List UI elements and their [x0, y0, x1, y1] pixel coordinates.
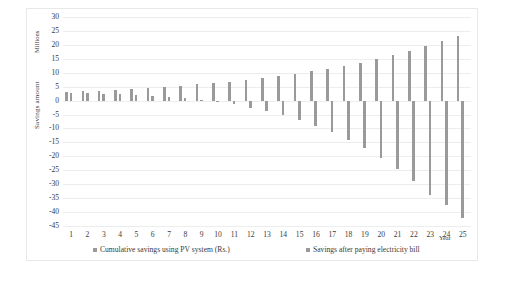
bar-series-2: [314, 101, 317, 126]
bar-group: [308, 17, 324, 226]
bar-series-1: [375, 59, 378, 101]
bar-group: [177, 17, 193, 226]
bar-series-1: [179, 86, 182, 101]
bar-series-1: [392, 55, 395, 100]
bar-series-1: [441, 41, 444, 100]
bar-series-2: [184, 98, 187, 101]
bar-group: [406, 17, 422, 226]
bar-series-2: [200, 100, 203, 101]
bar-series-2: [168, 97, 171, 101]
y-axis-tick: -10: [49, 125, 59, 133]
bar-series-1: [163, 87, 166, 101]
bar-series-2: [347, 101, 350, 140]
y-axis-tick: -45: [49, 222, 59, 230]
chart-container: 302520151050-5-10-15-20-25-30-35-40-45 S…: [26, 8, 478, 261]
y-axis-tick: 25: [51, 27, 59, 35]
bar-series-1: [196, 84, 199, 100]
bar-group: [63, 17, 79, 226]
bar-group: [112, 17, 128, 226]
x-axis-tick: 22: [410, 231, 418, 239]
gridline: [63, 226, 471, 227]
bar-series-1: [130, 89, 133, 101]
bar-group: [357, 17, 373, 226]
bar-series-group: [63, 17, 471, 226]
bar-group: [455, 17, 471, 226]
y-axis-title: Savings amount: [33, 81, 41, 129]
bar-series-1: [310, 71, 313, 100]
bar-group: [96, 17, 112, 226]
x-axis-tick: 21: [394, 231, 402, 239]
legend-item[interactable]: Cumulative savings using PV system (Rs.): [93, 246, 230, 254]
x-axis-tick: 17: [328, 231, 336, 239]
x-axis-tick: 9: [200, 231, 204, 239]
bar-series-2: [249, 101, 252, 108]
bar-series-2: [233, 101, 236, 105]
y-axis-tick: -30: [49, 180, 59, 188]
x-axis-tick: 3: [102, 231, 106, 239]
x-axis-tick: 6: [151, 231, 155, 239]
bar-series-1: [359, 63, 362, 101]
bar-group: [275, 17, 291, 226]
x-axis-tick: 1: [69, 231, 73, 239]
bar-group: [259, 17, 275, 226]
bar-series-2: [282, 101, 285, 116]
x-axis-tick: 16: [312, 231, 320, 239]
x-axis-tick: 19: [361, 231, 369, 239]
bar-series-2: [429, 101, 432, 196]
y-axis-tick: 0: [55, 97, 59, 105]
bar-series-2: [331, 101, 334, 132]
y-axis-tick: -20: [49, 153, 59, 161]
x-axis-tick: 4: [118, 231, 122, 239]
y-axis-tick: 10: [51, 69, 59, 77]
bar-series-1: [212, 83, 215, 101]
bar-series-2: [216, 101, 219, 102]
bar-group: [291, 17, 307, 226]
bar-series-2: [396, 101, 399, 169]
bar-series-1: [277, 76, 280, 101]
bar-group: [373, 17, 389, 226]
bar-series-1: [424, 46, 427, 100]
bar-series-1: [114, 90, 117, 101]
y-axis-tick: -40: [49, 208, 59, 216]
bar-series-1: [147, 88, 150, 101]
bar-group: [389, 17, 405, 226]
bar-series-2: [102, 94, 105, 101]
y-axis-tick: -25: [49, 166, 59, 174]
bar-series-2: [412, 101, 415, 182]
bar-group: [324, 17, 340, 226]
x-axis-tick: 14: [280, 231, 288, 239]
bar-series-2: [380, 101, 383, 158]
bar-series-1: [457, 36, 460, 101]
bar-group: [161, 17, 177, 226]
x-axis-tick: 11: [231, 231, 238, 239]
bar-group: [145, 17, 161, 226]
x-axis-tick: 13: [263, 231, 271, 239]
bar-series-1: [326, 69, 329, 101]
legend-swatch-icon: [93, 248, 97, 252]
bar-series-1: [245, 80, 248, 101]
legend-label: Cumulative savings using PV system (Rs.): [100, 245, 230, 254]
x-axis-tick: 5: [135, 231, 139, 239]
x-axis-tick: 8: [183, 231, 187, 239]
bar-group: [210, 17, 226, 226]
x-axis-tick: 20: [377, 231, 385, 239]
bar-series-2: [265, 101, 268, 112]
y-axis-tick: 15: [51, 55, 59, 63]
x-axis-tick-labels: 1234567891011121314151617181920212223242…: [63, 231, 471, 243]
x-axis-tick: 15: [296, 231, 304, 239]
bar-series-1: [408, 51, 411, 101]
y-axis-tick: 20: [51, 41, 59, 49]
bar-series-1: [261, 78, 264, 101]
y-axis-tick: -5: [53, 111, 59, 119]
legend-item[interactable]: Savings after paying electricity bill: [306, 246, 420, 254]
bar-series-2: [298, 101, 301, 121]
x-axis-tick: 18: [345, 231, 353, 239]
plot-area: 302520151050-5-10-15-20-25-30-35-40-45 S…: [63, 17, 471, 226]
bar-group: [422, 17, 438, 226]
bar-series-2: [119, 94, 122, 100]
y-axis-tick: 30: [51, 13, 59, 21]
bar-group: [438, 17, 454, 226]
legend-label: Savings after paying electricity bill: [313, 245, 420, 254]
x-axis-title: Year: [439, 234, 451, 241]
bar-group: [79, 17, 95, 226]
